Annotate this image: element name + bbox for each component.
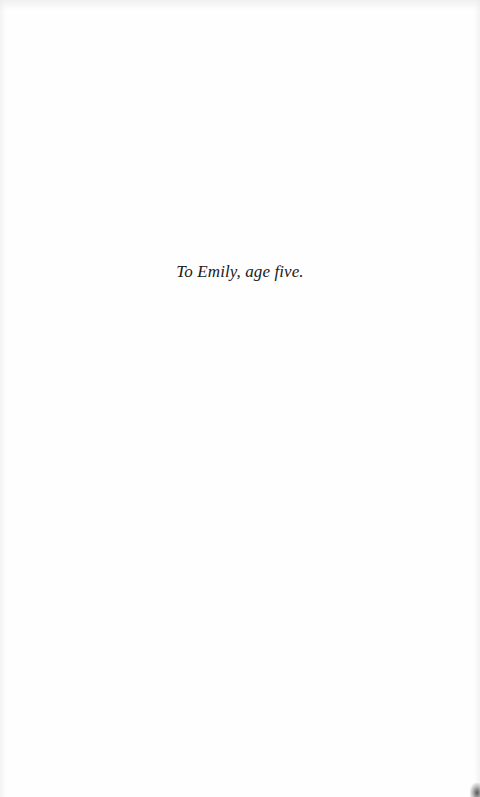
book-page: To Emily, age five.: [0, 0, 480, 797]
page-edge-shadow-top: [0, 0, 480, 10]
dedication-text: To Emily, age five.: [0, 262, 480, 282]
page-corner-smudge: [470, 783, 480, 797]
page-edge-shadow-left: [0, 0, 6, 797]
page-edge-shadow-right: [474, 0, 480, 797]
